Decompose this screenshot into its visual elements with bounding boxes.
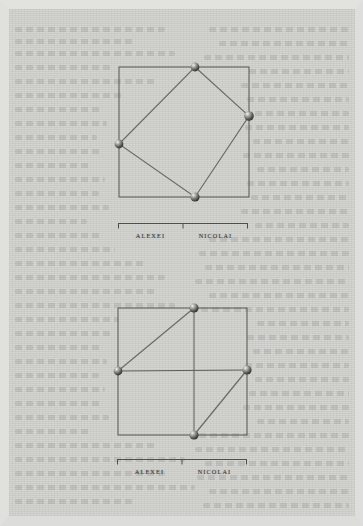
bleedthrough-line bbox=[15, 387, 105, 392]
caption-nicolai-top: NICOLAI bbox=[183, 232, 248, 239]
bleedthrough-line bbox=[15, 331, 111, 336]
bleedthrough-line bbox=[245, 363, 349, 368]
bleedthrough-line bbox=[253, 349, 349, 354]
caption-nicolai-bottom: NICOLAI bbox=[182, 468, 247, 475]
bleedthrough-line bbox=[15, 443, 155, 448]
bleedthrough-line bbox=[15, 27, 165, 32]
bleedthrough-line bbox=[15, 51, 175, 56]
vertex-sphere-right bbox=[242, 365, 251, 374]
bleedthrough-line bbox=[15, 485, 195, 490]
bleedthrough-line bbox=[15, 247, 115, 252]
bleedthrough-line bbox=[209, 489, 349, 494]
inscribed-tilted-square bbox=[119, 67, 249, 197]
bleedthrough-line bbox=[15, 317, 119, 322]
bleedthrough-line bbox=[15, 275, 165, 280]
bleedthrough-line bbox=[15, 107, 101, 112]
upper-left-diagonal bbox=[118, 308, 194, 371]
bleedthrough-line bbox=[219, 41, 349, 46]
bleedthrough-line bbox=[15, 499, 135, 504]
figure-top-svg bbox=[118, 66, 250, 198]
bleedthrough-line bbox=[15, 415, 109, 420]
bleedthrough-line bbox=[209, 293, 349, 298]
bleedthrough-line bbox=[15, 191, 99, 196]
bleedthrough-line bbox=[197, 475, 349, 480]
bleedthrough-line bbox=[255, 223, 349, 228]
bleedthrough-line bbox=[15, 219, 87, 224]
bleedthrough-line bbox=[204, 55, 349, 60]
bleedthrough-line bbox=[257, 419, 349, 424]
bleedthrough-line bbox=[195, 447, 349, 452]
bleedthrough-line bbox=[243, 405, 349, 410]
figure-bottom-caption-row: ALEXEI NICOLAI bbox=[117, 468, 247, 475]
bleedthrough-line bbox=[15, 65, 111, 70]
bleedthrough-line bbox=[199, 251, 349, 256]
bleedthrough-line bbox=[15, 359, 107, 364]
bleedthrough-line bbox=[255, 111, 349, 116]
bleedthrough-line bbox=[257, 321, 349, 326]
bleedthrough-line bbox=[247, 335, 349, 340]
outer-square bbox=[119, 67, 249, 197]
bleedthrough-line bbox=[15, 233, 103, 238]
bleedthrough-line bbox=[15, 135, 97, 140]
bleedthrough-line bbox=[15, 401, 101, 406]
vertex-sphere-top bbox=[189, 303, 198, 312]
bleedthrough-line bbox=[15, 177, 105, 182]
bleedthrough-line bbox=[15, 429, 91, 434]
vertex-sphere-left bbox=[115, 140, 124, 149]
figure-top-caption-row: ALEXEI NICOLAI bbox=[118, 232, 248, 239]
figure-bottom-svg bbox=[117, 307, 248, 436]
vertex-sphere-bottom bbox=[189, 430, 198, 439]
bleedthrough-line bbox=[243, 153, 349, 158]
vertex-sphere-top bbox=[191, 63, 200, 72]
figure-top-bracket bbox=[118, 222, 250, 232]
vertex-sphere-left bbox=[114, 367, 123, 376]
figure-bottom-bracket bbox=[117, 458, 249, 468]
bleedthrough-line bbox=[249, 391, 349, 396]
bleedthrough-line bbox=[15, 93, 125, 98]
bleedthrough-line bbox=[203, 503, 349, 508]
bleedthrough-line bbox=[15, 149, 103, 154]
bleedthrough-line bbox=[15, 373, 99, 378]
bleedthrough-line bbox=[15, 205, 109, 210]
caption-alexei-top: ALEXEI bbox=[118, 232, 183, 239]
figure-top-bracket-svg bbox=[118, 222, 250, 232]
vertex-sphere-right bbox=[244, 111, 254, 121]
bleedthrough-line bbox=[15, 121, 107, 126]
bleedthrough-line bbox=[15, 39, 135, 44]
bleedthrough-line bbox=[253, 139, 349, 144]
horizontal-midline bbox=[118, 370, 247, 371]
bleedthrough-line bbox=[195, 279, 349, 284]
bleedthrough-line bbox=[15, 345, 103, 350]
bleedthrough-line bbox=[15, 261, 145, 266]
bleedthrough-line bbox=[251, 195, 349, 200]
figure-bottom-bracket-svg bbox=[117, 458, 249, 468]
bleedthrough-line bbox=[209, 27, 349, 32]
bleedthrough-line bbox=[15, 289, 155, 294]
outer-square bbox=[118, 308, 247, 435]
lower-right-diagonal bbox=[194, 370, 247, 435]
scanned-page: ALEXEI NICOLAI bbox=[0, 0, 363, 526]
bleedthrough-line bbox=[247, 97, 349, 102]
caption-alexei-bottom: ALEXEI bbox=[117, 468, 182, 475]
bleedthrough-line bbox=[245, 125, 349, 130]
bleedthrough-line bbox=[15, 163, 91, 168]
vertex-sphere-bottom bbox=[190, 192, 199, 201]
bleedthrough-line bbox=[257, 167, 349, 172]
figure-bottom-quartered-square bbox=[117, 307, 248, 436]
bleedthrough-line bbox=[205, 265, 349, 270]
bleedthrough-line bbox=[241, 83, 349, 88]
bleedthrough-line bbox=[255, 377, 349, 382]
bleedthrough-line bbox=[249, 69, 349, 74]
figure-top-inscribed-square bbox=[118, 66, 250, 198]
bleedthrough-line bbox=[247, 181, 349, 186]
bleedthrough-line bbox=[241, 209, 349, 214]
